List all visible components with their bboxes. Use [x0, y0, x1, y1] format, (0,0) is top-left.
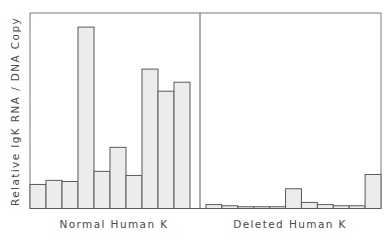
panel-label-normal: Normal Human K: [59, 218, 168, 230]
bar-deleted-6: [286, 189, 302, 209]
bar-deleted-4: [254, 207, 270, 209]
bar-normal-2: [46, 180, 62, 208]
bar-normal-3: [62, 182, 78, 209]
bar-normal-4: [78, 27, 94, 208]
bar-deleted-8: [317, 205, 333, 209]
bar-normal-10: [174, 82, 190, 208]
bar-normal-9: [158, 91, 174, 208]
bar-deleted-1: [206, 205, 222, 209]
bar-deleted-11: [365, 174, 381, 208]
y-axis-label: Relative IgK RNA / DNA Copy: [9, 17, 21, 206]
panel-label-deleted: Deleted Human K: [233, 218, 347, 230]
bar-deleted-7: [301, 202, 317, 208]
bar-normal-6: [110, 147, 126, 208]
bar-deleted-3: [238, 207, 254, 209]
bar-normal-5: [94, 171, 110, 208]
bar-deleted-2: [222, 206, 238, 209]
bar-deleted-5: [270, 207, 286, 209]
bar-normal-7: [126, 175, 142, 208]
bar-normal-8: [142, 69, 158, 208]
bar-chart: Relative IgK RNA / DNA Copy Normal Human…: [0, 0, 391, 241]
bar-deleted-10: [349, 206, 365, 209]
bar-deleted-9: [333, 206, 349, 209]
bar-normal-1: [30, 184, 46, 208]
bars-group: [30, 27, 381, 208]
